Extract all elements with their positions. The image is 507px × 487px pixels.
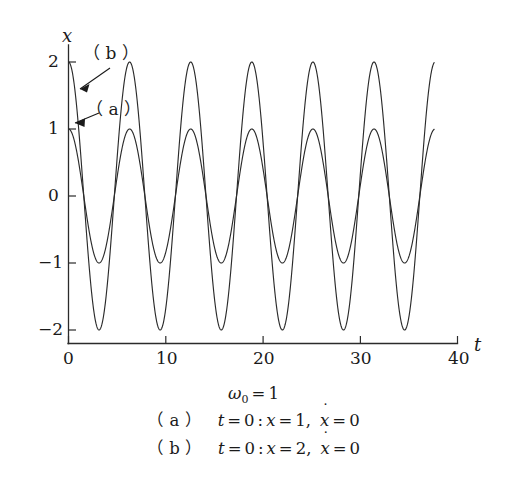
- caption-b-xdot-symbol: x: [320, 441, 329, 458]
- x-tick-label-10: 10: [156, 350, 178, 367]
- caption-b-t-symbol: t: [218, 439, 225, 458]
- x-axis-label: t: [474, 336, 481, 354]
- caption-a-colon: :: [255, 411, 267, 430]
- caption-b-colon: :: [255, 439, 267, 458]
- plot-area: [0, 0, 507, 380]
- caption-a-xdot-value: 0: [349, 411, 360, 430]
- x-tick-label-20: 20: [253, 350, 275, 367]
- caption-line-a: （ a ）t=0:x=1,x=0: [0, 413, 507, 430]
- caption-a-eq3: =: [329, 411, 349, 430]
- curve-series-a: [69, 129, 435, 263]
- caption-a-eq2: =: [275, 411, 295, 430]
- caption-b-xdot-value: 0: [350, 439, 361, 458]
- caption-a-x-value: 1,: [295, 411, 311, 430]
- y-tick-label-1: 1: [48, 120, 59, 137]
- y-axis-label: x: [62, 27, 72, 45]
- x-tick-label-40: 40: [448, 350, 470, 367]
- x-tick-label-30: 30: [350, 350, 372, 367]
- caption-line-b: （ b ）t=0:x=2,x=0: [0, 441, 507, 458]
- y-tick-label-2: 2: [48, 53, 59, 70]
- x-tick-label-0: 0: [63, 350, 74, 367]
- caption-b-eq3: =: [330, 439, 350, 458]
- annotation-leader-b: [80, 68, 110, 93]
- y-tick-label-neg2: −2: [38, 321, 63, 338]
- caption-b-tag: （ b ）: [147, 439, 202, 458]
- caption-a-xdot-symbol: x: [320, 413, 329, 430]
- x-tick-marks: [69, 336, 458, 344]
- caption-b-t-value: 0: [244, 439, 255, 458]
- caption-a-eq1: =: [224, 411, 244, 430]
- caption-b-x-symbol: x: [267, 439, 276, 458]
- caption-b-eq1: =: [225, 439, 245, 458]
- omega-subscript: 0: [242, 393, 249, 406]
- omega-value: 1: [268, 384, 279, 403]
- series-annotation-a: （ a ）: [86, 101, 141, 118]
- y-tick-label-neg1: −1: [38, 254, 63, 271]
- series-annotation-b: （ b ）: [83, 45, 139, 62]
- figure-container: x t 2 1 0 −1 −2 0 10 20 30 40 （ b ） （ a …: [0, 0, 507, 487]
- y-tick-marks: [69, 62, 77, 330]
- caption-b-eq2: =: [276, 439, 296, 458]
- omega-equals: =: [249, 384, 269, 403]
- caption-a-tag: （ a ）: [147, 411, 201, 430]
- omega-symbol: ω: [228, 384, 241, 403]
- caption-b-x-value: 2,: [296, 439, 312, 458]
- y-tick-label-0: 0: [48, 187, 59, 204]
- caption-a-t-value: 0: [244, 411, 255, 430]
- caption-omega: ω0=1: [0, 386, 507, 405]
